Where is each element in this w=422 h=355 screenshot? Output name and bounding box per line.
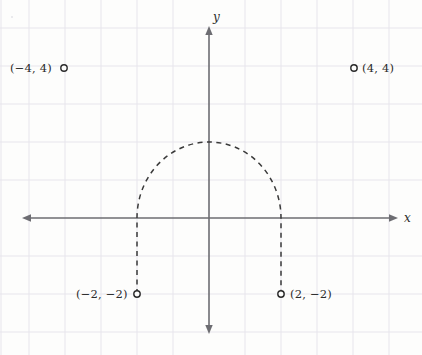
coordinate-plane-canvas	[0, 0, 422, 355]
y-axis-label: y	[213, 10, 220, 24]
y-axis-arrow-up	[205, 26, 212, 35]
x-axis-label: x	[404, 211, 411, 225]
point-label-upper-right: (4, 4)	[362, 61, 394, 75]
x-axis-arrow-right	[389, 214, 398, 221]
point-marker-lower-right	[278, 291, 284, 297]
graph-figure: (−4, 4) (4, 4) (−2, −2) (2, −2) x y	[0, 0, 422, 355]
point-marker-lower-left	[134, 291, 140, 297]
grid-lines	[0, 0, 422, 355]
point-label-lower-left: (−2, −2)	[76, 287, 128, 301]
point-marker-upper-left	[61, 65, 67, 71]
point-marker-upper-right	[351, 65, 357, 71]
y-axis-arrow-down	[205, 325, 212, 334]
x-axis-arrow-left	[22, 214, 31, 221]
point-label-lower-right: (2, −2)	[290, 287, 332, 301]
point-label-upper-left: (−4, 4)	[10, 61, 52, 75]
